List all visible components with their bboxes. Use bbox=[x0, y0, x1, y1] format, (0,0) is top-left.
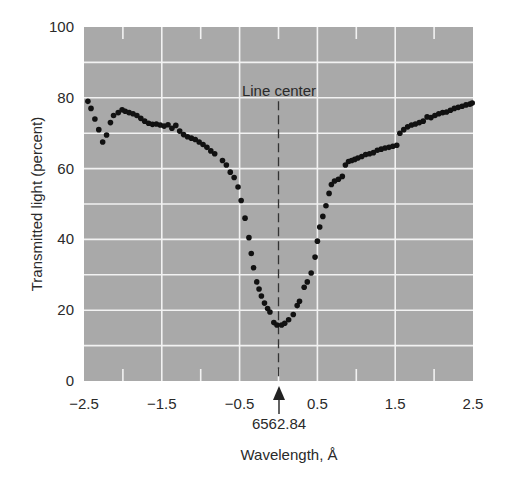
data-point bbox=[88, 106, 94, 112]
data-point bbox=[312, 254, 318, 260]
data-point bbox=[227, 169, 233, 175]
data-point bbox=[235, 184, 241, 190]
y-tick-label: 60 bbox=[57, 160, 74, 177]
data-point bbox=[251, 265, 257, 271]
data-point bbox=[96, 127, 102, 133]
data-point bbox=[304, 279, 310, 285]
data-point bbox=[238, 198, 244, 204]
y-axis-title: Transmitted light (percent) bbox=[28, 117, 45, 292]
data-point bbox=[259, 293, 265, 299]
x-tick-label: −2.5 bbox=[69, 395, 99, 412]
data-point bbox=[297, 299, 303, 305]
x-tick-label: 0.5 bbox=[307, 395, 328, 412]
data-point bbox=[320, 214, 326, 220]
y-tick-label: 40 bbox=[57, 230, 74, 247]
data-point bbox=[254, 279, 260, 285]
y-tick-label: 20 bbox=[57, 301, 74, 318]
data-point bbox=[301, 284, 307, 290]
x-tick-label: −1.5 bbox=[147, 395, 177, 412]
data-point bbox=[100, 139, 106, 145]
data-point bbox=[108, 120, 114, 126]
x-tick-label: 2.5 bbox=[463, 395, 484, 412]
data-point bbox=[290, 312, 296, 318]
x-tick-label: 1.5 bbox=[385, 395, 406, 412]
y-axis-tick-labels: 020406080100 bbox=[49, 18, 74, 389]
data-point bbox=[246, 235, 252, 241]
data-point bbox=[339, 174, 345, 180]
data-point bbox=[256, 286, 262, 292]
data-point bbox=[220, 158, 226, 164]
data-point bbox=[92, 116, 98, 122]
data-point bbox=[224, 162, 230, 168]
data-point bbox=[231, 175, 237, 181]
line-center-label: Line center bbox=[242, 82, 316, 99]
center-wavelength-arrow-icon bbox=[273, 386, 285, 414]
data-point bbox=[469, 100, 475, 106]
y-tick-label: 0 bbox=[66, 372, 74, 389]
data-point bbox=[323, 203, 329, 209]
data-point bbox=[420, 118, 426, 124]
data-point bbox=[326, 191, 332, 197]
data-point bbox=[394, 142, 400, 148]
data-point bbox=[267, 309, 273, 315]
y-tick-label: 100 bbox=[49, 18, 74, 35]
data-point bbox=[85, 99, 91, 105]
data-point bbox=[248, 251, 254, 257]
data-point bbox=[212, 151, 218, 157]
data-point bbox=[173, 123, 179, 129]
data-point bbox=[262, 300, 268, 306]
data-point bbox=[315, 238, 321, 244]
data-point bbox=[317, 224, 323, 230]
data-point bbox=[286, 317, 292, 323]
y-tick-label: 80 bbox=[57, 89, 74, 106]
data-point bbox=[308, 270, 314, 276]
line-profile-chart: Line center 020406080100 −2.5−1.5−0.50.5… bbox=[0, 0, 512, 486]
x-axis-title: Wavelength, Å bbox=[241, 446, 338, 463]
x-tick-label: −0.5 bbox=[225, 395, 255, 412]
center-wavelength-label: 6562.84 bbox=[252, 415, 306, 432]
data-point bbox=[104, 132, 110, 138]
data-point bbox=[111, 113, 117, 119]
data-point bbox=[242, 215, 248, 221]
